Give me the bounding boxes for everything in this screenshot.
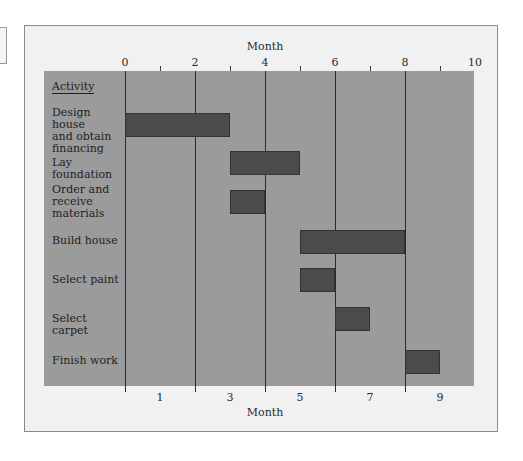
bottom-tick-5: 5: [297, 391, 304, 404]
bar-foundation: [230, 151, 300, 175]
bottom-tick-9: 9: [437, 391, 444, 404]
minor-tick-5: [300, 66, 301, 71]
bottom-tick-3: 3: [227, 391, 234, 404]
minor-tick-3: [230, 66, 231, 71]
side-box: [0, 27, 7, 64]
task-label-line: Select paint: [52, 274, 122, 286]
task-label-foundation: Lay foundation: [52, 157, 122, 181]
task-label-line: Finish work: [52, 355, 122, 367]
task-label-line: Build house: [52, 235, 122, 247]
task-label-line: Design house: [52, 107, 122, 131]
minor-tick-7: [370, 66, 371, 71]
task-label-materials: Order and receive materials: [52, 184, 122, 220]
minor-tick-1: [160, 66, 161, 71]
top-axis-title: Month: [247, 40, 283, 53]
task-label-carpet: Select carpet: [52, 313, 122, 337]
gridline-4: [265, 71, 266, 392]
top-tick-2: 2: [192, 56, 199, 69]
top-tick-4: 4: [262, 56, 269, 69]
top-tick-0: 0: [122, 56, 129, 69]
top-tick-10: 10: [468, 56, 482, 69]
bar-design: [125, 113, 230, 137]
gridline-8: [405, 71, 406, 392]
minor-tick-9: [440, 66, 441, 71]
task-label-design: Design house and obtain financing: [52, 107, 122, 155]
task-label-line: Select carpet: [52, 313, 122, 337]
bar-finish: [405, 350, 440, 374]
task-label-finish: Finish work: [52, 355, 122, 367]
bar-build: [300, 230, 405, 254]
bottom-tick-7: 7: [367, 391, 374, 404]
task-label-line: financing: [52, 143, 122, 155]
activity-header: Activity: [52, 80, 94, 94]
bottom-axis-title: Month: [247, 406, 283, 419]
task-label-build: Build house: [52, 235, 122, 247]
bar-carpet: [335, 307, 370, 331]
task-label-paint: Select paint: [52, 274, 122, 286]
bar-paint: [300, 268, 335, 292]
top-tick-8: 8: [402, 56, 409, 69]
top-tick-6: 6: [332, 56, 339, 69]
bar-materials: [230, 190, 265, 214]
task-label-line: Lay foundation: [52, 157, 122, 181]
bottom-tick-1: 1: [157, 391, 164, 404]
task-label-line: materials: [52, 208, 122, 220]
